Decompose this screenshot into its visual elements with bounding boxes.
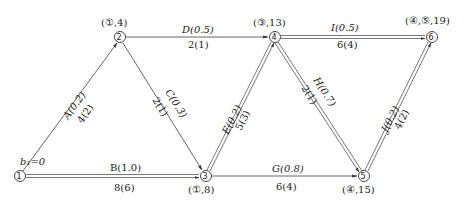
node-2-label: (①,4) xyxy=(101,17,127,28)
edge-I-value: 6(4) xyxy=(337,39,358,50)
edge-J: J(0.2) 4(2) xyxy=(365,42,431,171)
edge-G-value: 6(4) xyxy=(276,181,297,192)
node-3-symbol: 3 xyxy=(203,172,208,181)
node-4: 4 (③,13) xyxy=(253,17,286,43)
start-label: b₁=0 xyxy=(20,156,46,167)
network-diagram: A(0.2) 4(2) B(1.0) 8(6) C(0.3) 2(1) D(0.… xyxy=(0,0,472,206)
edge-C: C(0.3) 2(1) xyxy=(123,43,202,170)
edge-D: D(0.5) 2(1) xyxy=(126,24,268,50)
edge-B-value: 8(6) xyxy=(114,182,135,193)
node-5: 5 (④,15) xyxy=(342,171,375,196)
edge-I: I(0.5) 6(4) xyxy=(281,22,425,50)
edge-I-name: I(0.5) xyxy=(330,22,359,33)
node-4-symbol: 4 xyxy=(272,33,277,42)
edge-B: B(1.0) 8(6) xyxy=(26,162,199,193)
node-6-symbol: 6 xyxy=(429,33,434,42)
edge-H: H(0.7) 2(1) xyxy=(275,42,362,172)
edge-D-value: 2(1) xyxy=(188,39,209,50)
node-1: 1 xyxy=(15,171,26,182)
node-6-label: (④,⑤,19) xyxy=(405,15,450,26)
edge-B-name: B(1.0) xyxy=(110,162,141,173)
node-3-label: (①,8) xyxy=(188,184,214,195)
node-1-symbol: 1 xyxy=(17,172,22,181)
edge-A: A(0.2) 4(2) xyxy=(23,43,117,171)
edge-E: E(0.2) 5(3) xyxy=(207,42,274,171)
edge-D-name: D(0.5) xyxy=(181,24,214,35)
node-5-symbol: 5 xyxy=(361,172,366,181)
node-4-label: (③,13) xyxy=(253,17,286,28)
edge-G-name: G(0.8) xyxy=(272,163,304,174)
node-2-symbol: 2 xyxy=(117,33,122,42)
edge-G: G(0.8) 6(4) xyxy=(212,163,357,192)
node-2: 2 (①,4) xyxy=(101,17,127,43)
node-5-label: (④,15) xyxy=(342,184,375,195)
